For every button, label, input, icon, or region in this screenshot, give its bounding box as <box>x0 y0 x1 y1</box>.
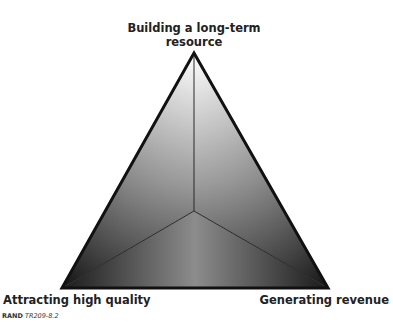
footer-org: RAND <box>2 312 23 320</box>
vertex-label-top-line1: Building a long-term <box>0 21 388 35</box>
figure-source: RAND TR209-8.2 <box>2 312 59 320</box>
vertex-label-bottom-right: Generating revenue <box>260 293 389 307</box>
footer-code: TR209-8.2 <box>25 312 59 320</box>
vertex-label-top: Building a long-term resource <box>0 21 388 49</box>
vertex-label-bottom-left: Attracting high quality <box>3 293 151 307</box>
vertex-label-top-line2: resource <box>0 35 388 49</box>
